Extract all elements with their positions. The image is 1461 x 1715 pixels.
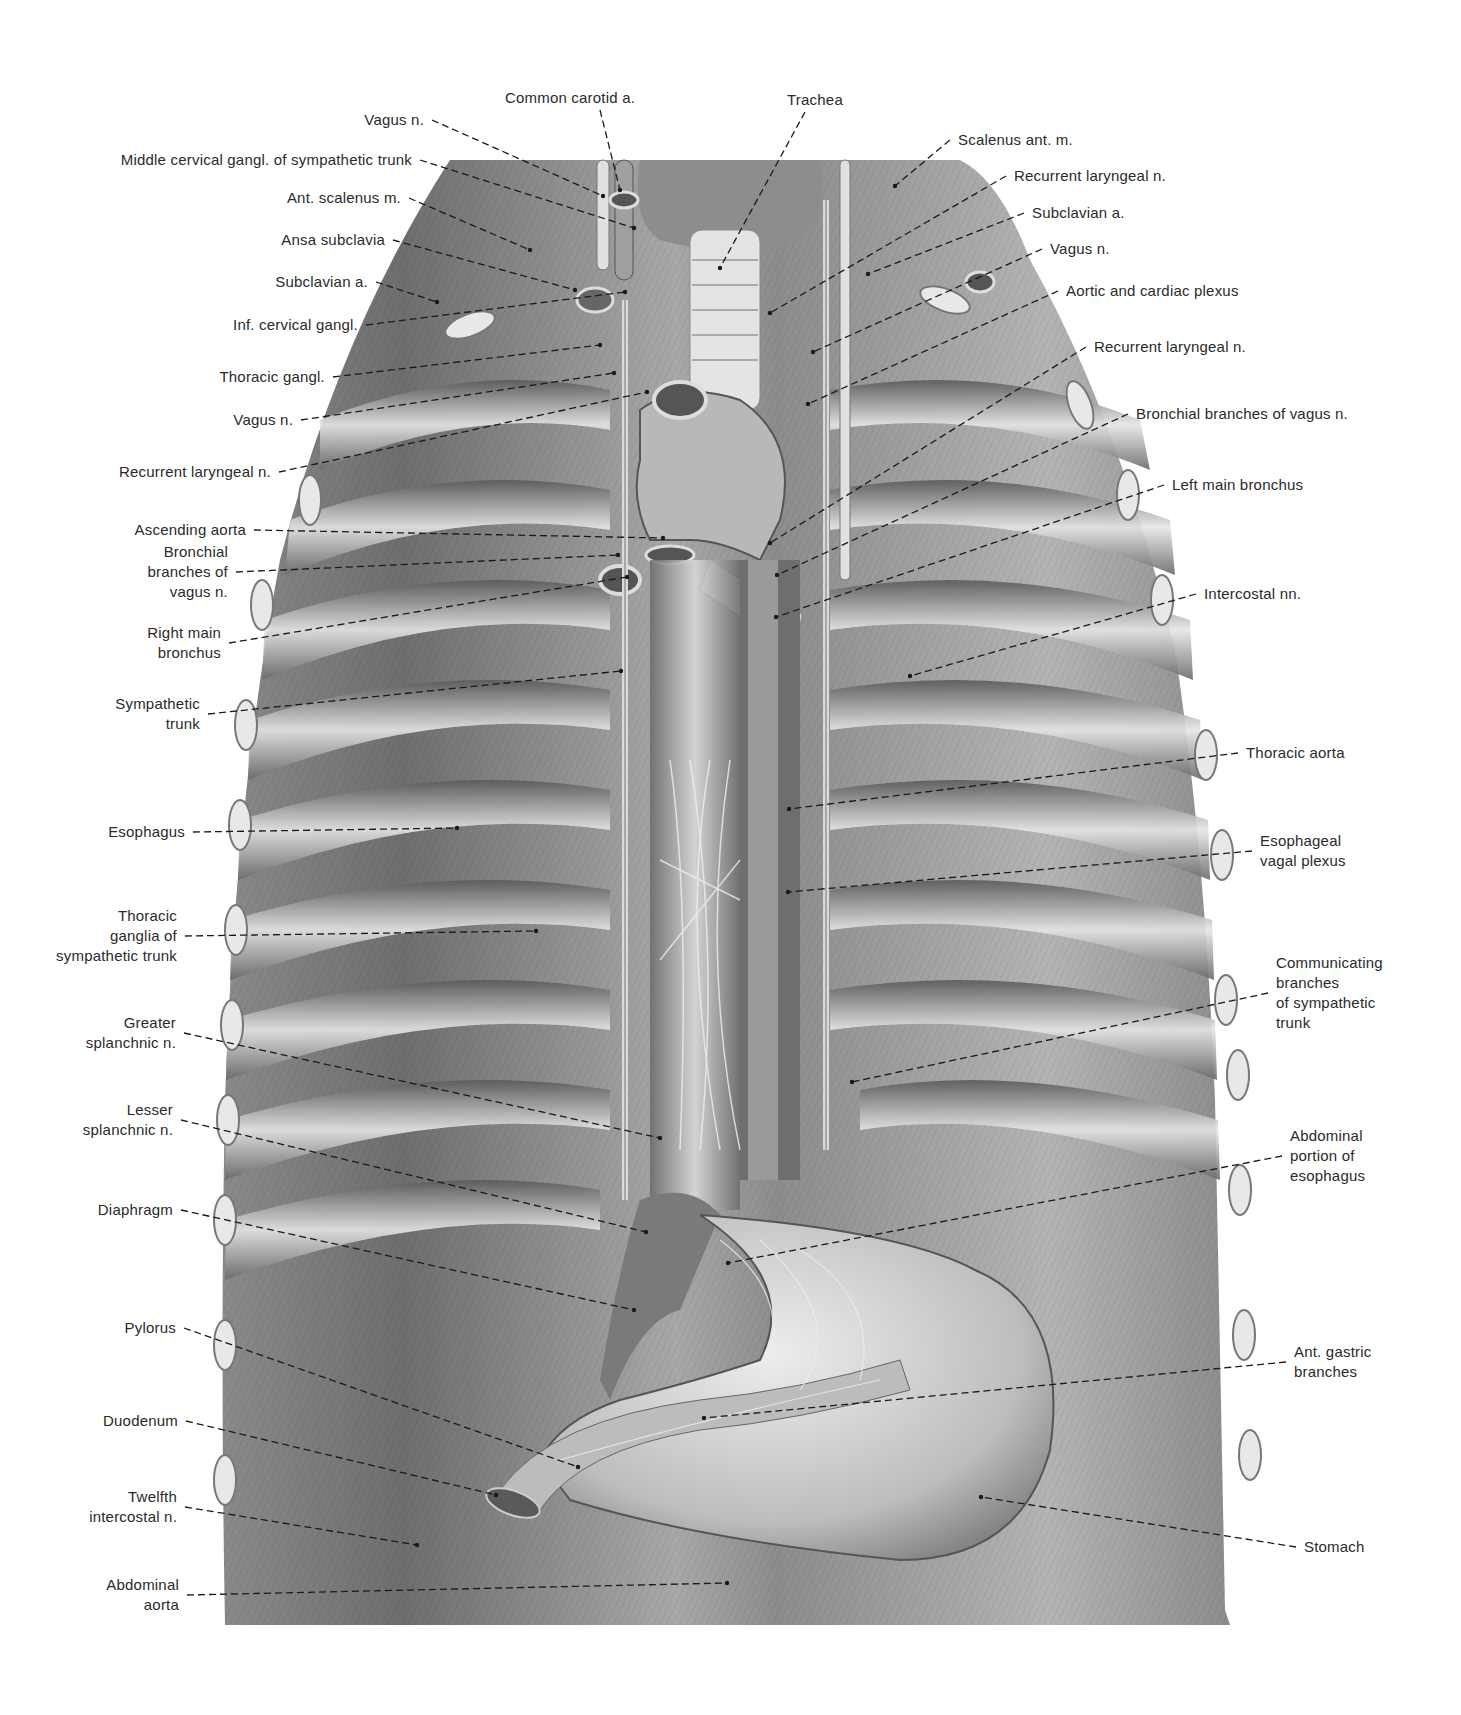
label-thoracic-gangl: Thoracic gangl. bbox=[219, 367, 325, 387]
label-ant-scalenus-m: Ant. scalenus m. bbox=[287, 188, 401, 208]
label-vagus-n-left: Vagus n. bbox=[233, 410, 293, 430]
thorax-illustration bbox=[0, 0, 1461, 1715]
label-duodenum: Duodenum bbox=[103, 1411, 178, 1431]
label-ascending-aorta: Ascending aorta bbox=[135, 520, 246, 540]
label-ansa-subclavia: Ansa subclavia bbox=[281, 230, 385, 250]
label-subclavian-a-right: Subclavian a. bbox=[1032, 203, 1125, 223]
label-recurrent-laryngeal-n-right: Recurrent laryngeal n. bbox=[1094, 337, 1246, 357]
label-thoracic-aorta: Thoracic aorta bbox=[1246, 743, 1345, 763]
label-lesser-splanchnic-n: Lesser splanchnic n. bbox=[83, 1100, 173, 1140]
anatomy-figure: Common carotid a. Trachea Vagus n. Middl… bbox=[0, 0, 1461, 1715]
label-middle-cervical-gangl: Middle cervical gangl. of sympathetic tr… bbox=[121, 150, 412, 170]
label-scalenus-ant-m: Scalenus ant. m. bbox=[958, 130, 1073, 150]
label-inf-cervical-gangl: Inf. cervical gangl. bbox=[233, 315, 358, 335]
label-abdominal-aorta: Abdominal aorta bbox=[106, 1575, 179, 1615]
label-abdominal-portion-esophagus: Abdominal portion of esophagus bbox=[1290, 1126, 1365, 1186]
label-sympathetic-trunk: Sympathetic trunk bbox=[115, 694, 200, 734]
label-greater-splanchnic-n: Greater splanchnic n. bbox=[86, 1013, 176, 1053]
label-subclavian-a-left: Subclavian a. bbox=[275, 272, 368, 292]
label-diaphragm: Diaphragm bbox=[98, 1200, 173, 1220]
label-twelfth-intercostal-n: Twelfth intercostal n. bbox=[89, 1487, 177, 1527]
label-recurrent-laryngeal-n-right-top: Recurrent laryngeal n. bbox=[1014, 166, 1166, 186]
label-esophagus: Esophagus bbox=[108, 822, 185, 842]
label-right-main-bronchus: Right main bronchus bbox=[147, 623, 221, 663]
label-recurrent-laryngeal-n-left: Recurrent laryngeal n. bbox=[119, 462, 271, 482]
label-pylorus: Pylorus bbox=[125, 1318, 176, 1338]
label-esophageal-vagal-plexus: Esophageal vagal plexus bbox=[1260, 831, 1346, 871]
label-thoracic-ganglia: Thoracic ganglia of sympathetic trunk bbox=[56, 906, 177, 966]
label-ant-gastric-branches: Ant. gastric branches bbox=[1294, 1342, 1371, 1382]
label-communicating-branches: Communicating branches of sympathetic tr… bbox=[1276, 953, 1383, 1033]
label-bronchial-branches-vagus-left: Bronchial branches of vagus n. bbox=[147, 542, 228, 602]
label-trachea: Trachea bbox=[615, 90, 1015, 110]
label-intercostal-nn: Intercostal nn. bbox=[1204, 584, 1301, 604]
label-left-main-bronchus: Left main bronchus bbox=[1172, 475, 1303, 495]
label-bronchial-branches-vagus-right: Bronchial branches of vagus n. bbox=[1136, 404, 1348, 424]
label-vagus-n-top: Vagus n. bbox=[364, 110, 424, 130]
label-vagus-n-right: Vagus n. bbox=[1050, 239, 1110, 259]
label-aortic-cardiac-plexus: Aortic and cardiac plexus bbox=[1066, 281, 1239, 301]
label-stomach: Stomach bbox=[1304, 1537, 1365, 1557]
